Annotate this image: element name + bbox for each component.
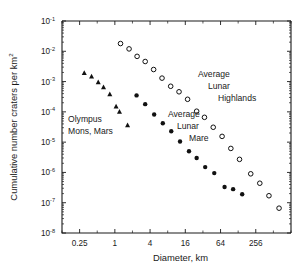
data-point-filled-circle [212, 171, 216, 175]
y-tick-exponent: -4 [50, 106, 55, 112]
data-point-filled-circle [194, 156, 198, 160]
annotation-mare-line-1: Average [168, 109, 200, 119]
data-point-open-circle [267, 193, 272, 198]
annotation-mare-line-3: Mare [189, 133, 209, 143]
data-point-open-circle [151, 67, 156, 72]
y-axis-title-superscript: 2 [7, 53, 14, 57]
data-point-filled-circle [143, 102, 147, 106]
x-tick-label: 1 [113, 239, 118, 248]
y-tick-label: 10-8 [41, 228, 55, 238]
data-point-filled-circle [161, 121, 165, 125]
data-point-open-circle [248, 172, 253, 177]
x-tick-label: 16 [181, 239, 191, 248]
x-axis-title: Diameter, km [153, 252, 208, 263]
data-point-open-circle [177, 89, 182, 94]
data-point-filled-circle [231, 187, 235, 191]
y-tick-exponent: -2 [50, 46, 55, 52]
data-point-triangle [82, 70, 87, 75]
data-point-open-circle [135, 54, 140, 59]
data-point-open-circle [160, 76, 165, 81]
data-point-open-circle [229, 146, 234, 151]
data-point-filled-circle [178, 139, 182, 143]
y-tick-label: 10-1 [41, 16, 55, 26]
y-tick-label: 10-5 [41, 137, 55, 147]
y-tick-label: 10-4 [41, 106, 55, 116]
data-point-triangle [114, 104, 119, 109]
y-axis-title: Cumulative number craters per km2 [7, 53, 19, 201]
y-tick-label: 10-7 [41, 197, 55, 207]
annotation-mare-line-2: Lunar [177, 121, 199, 131]
series-average-lunar-highlands [118, 41, 281, 210]
data-point-open-circle [202, 115, 207, 120]
y-tick-exponent: -6 [50, 167, 55, 173]
y-tick-label: 10-6 [41, 167, 55, 177]
data-point-filled-circle [152, 112, 156, 116]
annotation-highlands-line-1: Average [198, 69, 230, 79]
data-point-open-circle [257, 181, 262, 186]
data-point-open-circle [118, 41, 123, 46]
annotation-highlands-line-3: Highlands [218, 93, 256, 103]
y-tick-exponent: -3 [50, 76, 55, 82]
y-tick-exponent: -8 [50, 228, 55, 234]
data-point-filled-circle [222, 185, 226, 189]
x-tick-label: 256 [249, 239, 263, 248]
x-tick-label: 64 [216, 239, 226, 248]
data-point-triangle [117, 109, 122, 114]
data-point-open-circle [277, 206, 282, 211]
y-tick-label: 10-2 [41, 46, 55, 56]
data-point-open-circle [220, 134, 225, 139]
data-point-triangle [107, 91, 112, 96]
data-point-filled-circle [203, 165, 207, 169]
data-point-filled-circle [240, 192, 244, 196]
data-point-filled-circle [169, 129, 173, 133]
y-tick-exponent: -5 [50, 137, 55, 143]
x-tick-label: 4 [148, 239, 153, 248]
data-point-triangle [101, 85, 106, 90]
data-point-open-circle [143, 59, 148, 64]
y-tick-label: 10-3 [41, 76, 55, 86]
data-point-triangle [89, 74, 94, 79]
x-tick-label: 0.25 [72, 239, 88, 248]
data-point-triangle [125, 122, 130, 127]
y-tick-exponent: -7 [50, 197, 55, 203]
y-tick-exponent: -1 [50, 16, 55, 22]
data-point-open-circle [127, 47, 132, 52]
annotation-highlands-line-2: Lunar [208, 81, 230, 91]
y-axis-title-group: Cumulative number craters per km2 [7, 53, 19, 201]
chart-canvas: 10-110-210-310-410-510-610-710-80.251416… [0, 0, 305, 275]
data-point-filled-circle [134, 93, 138, 97]
data-point-open-circle [211, 125, 216, 130]
crater-size-frequency-chart: 10-110-210-310-410-510-610-710-80.251416… [0, 0, 305, 275]
data-point-triangle [96, 79, 101, 84]
data-point-open-circle [185, 97, 190, 102]
data-point-filled-circle [187, 149, 191, 153]
data-point-open-circle [237, 157, 242, 162]
annotation-olympus-line-2: Mons, Mars [68, 126, 113, 136]
annotation-olympus-line-1: Olympus [68, 114, 102, 124]
data-point-open-circle [168, 84, 173, 89]
